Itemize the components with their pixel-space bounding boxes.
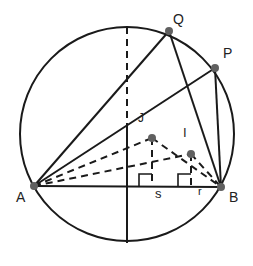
- label-P: P: [223, 45, 232, 61]
- chord-AB: [34, 186, 221, 187]
- point-A: [30, 182, 38, 190]
- dashed-AJ: [34, 138, 152, 186]
- point-B: [217, 183, 225, 191]
- point-P: [211, 64, 219, 72]
- label-r: r: [198, 185, 202, 197]
- right-angle-marker-r: [178, 174, 191, 187]
- label-Q: Q: [173, 11, 184, 27]
- point-I: [187, 150, 195, 158]
- label-A: A: [16, 189, 26, 205]
- point-Q: [165, 27, 173, 35]
- right-angle-marker-s: [139, 174, 152, 187]
- dashed-JB: [152, 138, 221, 187]
- geometry-diagram: A B Q P J I s r: [0, 0, 253, 266]
- label-B: B: [229, 189, 238, 205]
- point-J: [148, 134, 156, 142]
- segment-AP: [34, 68, 215, 186]
- label-J: J: [138, 111, 144, 125]
- label-s: s: [155, 186, 162, 201]
- label-I: I: [183, 125, 187, 140]
- segment-QB: [169, 31, 221, 187]
